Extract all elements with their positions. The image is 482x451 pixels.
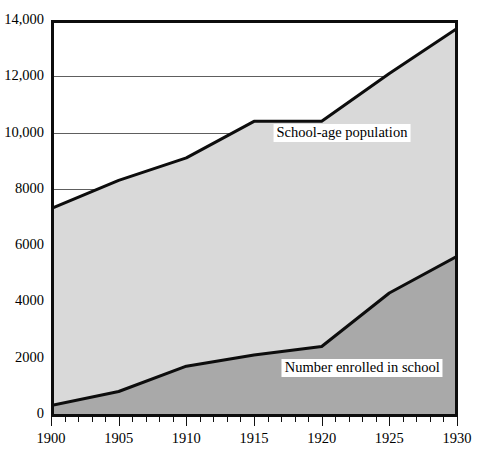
x-tick-label-1920: 1920 — [307, 431, 336, 446]
x-tick-label-1905: 1905 — [104, 431, 133, 446]
x-tick-major-1930 — [457, 417, 458, 426]
x-tick-minor-1916 — [268, 417, 269, 422]
y-tick-label-2000: 2000 — [15, 350, 44, 365]
y-tick-label-6000: 6000 — [15, 237, 44, 252]
x-tick-minor-1923 — [362, 417, 363, 422]
x-tick-minor-1921 — [335, 417, 336, 422]
x-tick-minor-1927 — [416, 417, 417, 422]
x-tick-label-1915: 1915 — [240, 431, 269, 446]
y-tick-label-8000: 8000 — [15, 181, 44, 196]
x-tick-major-1915 — [254, 417, 255, 426]
x-tick-minor-1908 — [159, 417, 160, 422]
x-tick-label-1910: 1910 — [172, 431, 201, 446]
x-tick-minor-1912 — [213, 417, 214, 422]
x-tick-major-1900 — [51, 417, 52, 426]
x-tick-major-1925 — [389, 417, 390, 426]
y-tick-label-14000: 14,000 — [4, 12, 44, 27]
x-tick-minor-1903 — [92, 417, 93, 422]
series-label-school-age-population: School-age population — [274, 124, 411, 142]
plot-area — [51, 20, 457, 414]
y-tick-label-0: 0 — [37, 406, 44, 421]
area-chart: 0200040006000800010,00012,00014,000 1900… — [0, 0, 482, 451]
x-tick-minor-1926 — [403, 417, 404, 422]
x-tick-minor-1924 — [376, 417, 377, 422]
series-label-number-enrolled-in-school: Number enrolled in school — [282, 359, 443, 377]
axis-frame-right — [455, 20, 458, 417]
x-tick-minor-1929 — [443, 417, 444, 422]
series-areas — [51, 20, 457, 414]
x-tick-minor-1917 — [281, 417, 282, 422]
x-tick-major-1905 — [119, 417, 120, 426]
y-tick-label-10000: 10,000 — [4, 125, 44, 140]
y-tick-label-4000: 4000 — [15, 293, 44, 308]
x-tick-label-1930: 1930 — [443, 431, 472, 446]
x-tick-label-1900: 1900 — [37, 431, 66, 446]
x-tick-minor-1928 — [430, 417, 431, 422]
y-tick-label-12000: 12,000 — [4, 68, 44, 83]
y-axis-line — [51, 20, 54, 417]
x-tick-minor-1909 — [173, 417, 174, 422]
x-tick-minor-1907 — [146, 417, 147, 422]
x-tick-major-1910 — [186, 417, 187, 426]
x-tick-minor-1914 — [240, 417, 241, 422]
x-tick-minor-1922 — [349, 417, 350, 422]
x-tick-minor-1904 — [105, 417, 106, 422]
x-tick-minor-1918 — [295, 417, 296, 422]
x-tick-minor-1913 — [227, 417, 228, 422]
x-tick-minor-1902 — [78, 417, 79, 422]
x-tick-label-1925: 1925 — [375, 431, 404, 446]
x-tick-minor-1901 — [65, 417, 66, 422]
axis-frame-top — [51, 20, 458, 23]
x-tick-major-1920 — [322, 417, 323, 426]
x-tick-minor-1906 — [132, 417, 133, 422]
x-tick-minor-1919 — [308, 417, 309, 422]
x-tick-minor-1911 — [200, 417, 201, 422]
